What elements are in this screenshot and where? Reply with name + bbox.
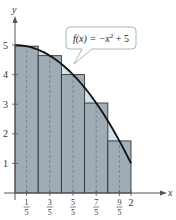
x-tick-denominator: 5 — [71, 208, 75, 217]
x-tick-numerator: 5 — [71, 198, 75, 207]
y-axis-arrow-icon — [13, 16, 18, 23]
y-axis-label: y — [11, 4, 17, 15]
x-axis-arrow-icon — [160, 191, 167, 196]
chart: y x 12345 15355575952 f(x) = −x2 + 5 — [0, 0, 176, 220]
x-axis-label: x — [167, 187, 173, 198]
x-ticks: 15355575952 — [24, 190, 134, 217]
y-tick-label: 3 — [3, 99, 8, 110]
function-label: f(x) = −x2 + 5 — [73, 32, 129, 45]
y-tick-label: 1 — [3, 158, 8, 169]
x-tick-label: 2 — [129, 197, 134, 208]
x-tick-denominator: 5 — [48, 208, 52, 217]
x-tick-numerator: 7 — [94, 198, 98, 207]
y-tick-label: 4 — [3, 69, 8, 80]
x-tick-numerator: 1 — [25, 198, 29, 207]
y-tick-label: 2 — [3, 128, 8, 139]
x-tick-denominator: 5 — [94, 208, 98, 217]
x-tick-denominator: 5 — [117, 208, 121, 217]
x-tick-numerator: 9 — [117, 198, 121, 207]
x-tick-denominator: 5 — [25, 208, 29, 217]
y-tick-label: 5 — [3, 40, 8, 51]
function-callout: f(x) = −x2 + 5 — [66, 27, 136, 64]
x-tick-numerator: 3 — [48, 198, 52, 207]
